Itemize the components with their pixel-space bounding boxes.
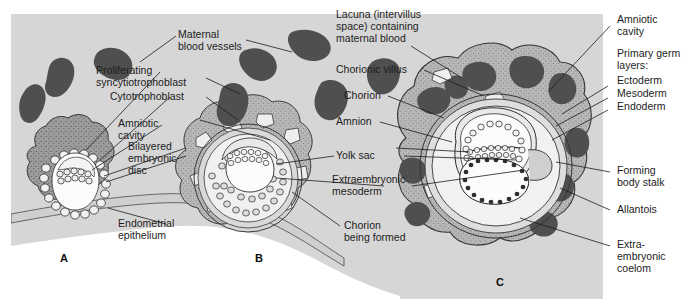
label-bilayered-embryonic-disc: Bilayered embryonic disc: [128, 141, 177, 176]
label-chorion: Chorion: [344, 90, 381, 102]
label-yolk-sac: Yolk sac: [336, 150, 375, 162]
label-proliferating-syncytiotrophoblast: Proliferating syncytiotrophoblast: [96, 65, 186, 89]
label-amniotic-cavity-a: Amniotic cavity: [118, 118, 158, 142]
label-amnion: Amnion: [336, 116, 372, 128]
panel-letter-c: C: [496, 276, 504, 288]
label-extraembryonic-mesoderm: Extraembryonic mesoderm: [332, 174, 405, 198]
label-amniotic-cavity-c: Amniotic cavity: [617, 14, 657, 38]
label-endoderm: Endoderm: [617, 101, 666, 113]
label-allantois: Allantois: [617, 204, 657, 216]
panel-letter-a: A: [60, 252, 68, 264]
label-extraembryonic-coelom: Extra- embryonic coelom: [617, 239, 666, 274]
label-lacuna: Lacuna (intervillus space) containing ma…: [336, 9, 421, 44]
label-forming-body-stalk: Forming body stalk: [617, 165, 664, 189]
label-chorionic-villus: Chorionic villus: [336, 64, 407, 76]
label-chorion-being-formed: Chorion being formed: [344, 220, 406, 244]
label-endometrial-epithelium: Endometrial epithelium: [118, 218, 174, 242]
embryology-figure: Maternal blood vessels Proliferating syn…: [0, 0, 688, 299]
panel-letter-b: B: [255, 252, 263, 264]
panel-background: [11, 14, 603, 299]
label-cytotrophoblast: Cytotrophoblast: [110, 91, 184, 103]
label-maternal-blood-vessels: Maternal blood vessels: [178, 29, 242, 53]
label-primary-germ-layers: Primary germ layers:: [617, 48, 680, 72]
label-mesoderm: Mesoderm: [617, 88, 667, 100]
label-ectoderm: Ectoderm: [617, 75, 662, 87]
